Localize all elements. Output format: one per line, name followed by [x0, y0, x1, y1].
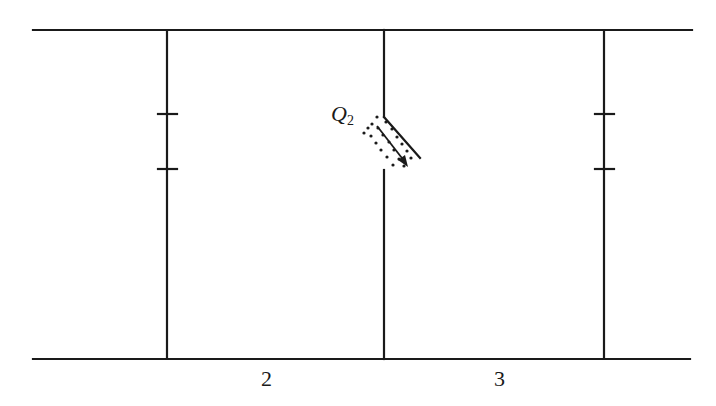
schematic	[0, 0, 716, 406]
left-branch	[158, 30, 177, 359]
region-label-3: 3	[494, 366, 505, 392]
charge-label: Q2	[331, 101, 354, 129]
diagonal-blade	[384, 117, 420, 158]
right-branch	[595, 30, 614, 359]
diagram-canvas: Q2 2 3	[0, 0, 716, 406]
middle-branch	[384, 30, 420, 359]
flow-arrow-icon	[377, 126, 408, 167]
region-label-2: 2	[261, 366, 272, 392]
